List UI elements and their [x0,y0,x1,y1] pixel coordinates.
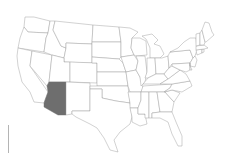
state-florida: Florida [152,112,182,146]
state-layer: WashingtonOregonCaliforniaNevadaIdahoMon… [17,17,214,152]
state-nebraska: Nebraska [92,57,126,72]
state-kansas: Kansas [97,72,128,86]
state-vermont: Vermont [196,33,200,46]
scale-bar [8,125,9,153]
state-arizona: Arizona [44,82,66,115]
state-north-dakota: North Dakota [92,25,121,42]
state-new-mexico: New Mexico [66,82,90,115]
us-map: WashingtonOregonCaliforniaNevadaIdahoMon… [0,0,232,162]
state-wisconsin: Wisconsin [131,38,147,56]
state-washington: Washington [24,17,50,33]
state-wyoming: Wyoming [64,43,92,63]
state-colorado: Colorado [70,62,97,83]
state-rhode-island: Rhode Island [202,49,204,53]
state-south-dakota: South Dakota [92,42,121,59]
